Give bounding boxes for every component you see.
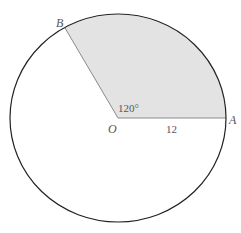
label-a: A bbox=[228, 113, 237, 127]
circle-sector-diagram: B A O 120° 12 bbox=[0, 0, 241, 233]
label-o: O bbox=[108, 122, 117, 136]
angle-label: 120° bbox=[118, 102, 139, 114]
radius-label: 12 bbox=[166, 123, 177, 135]
shaded-sector bbox=[65, 15, 226, 118]
label-b: B bbox=[56, 16, 64, 30]
